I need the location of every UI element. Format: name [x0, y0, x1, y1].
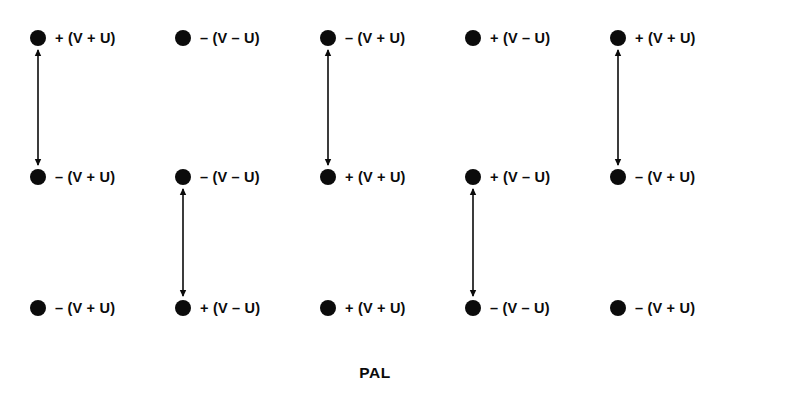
- phase-node-c3-r1: – (V + U): [320, 27, 405, 49]
- phase-node-label: – (V + U): [55, 170, 115, 185]
- phase-dot-icon: [30, 300, 46, 316]
- phase-node-label: + (V – U): [490, 31, 550, 46]
- phase-dot-icon: [320, 169, 336, 185]
- phase-node-label: – (V + U): [55, 301, 115, 316]
- phase-node-c2-r1: – (V – U): [175, 27, 260, 49]
- phase-node-label: – (V + U): [635, 170, 695, 185]
- phase-dot-icon: [175, 30, 191, 46]
- phase-arrow-col-4: [467, 188, 480, 297]
- phase-node-c2-r3: + (V – U): [175, 297, 260, 319]
- phase-node-c5-r3: – (V + U): [610, 297, 695, 319]
- phase-dot-icon: [320, 300, 336, 316]
- phase-node-label: + (V + U): [345, 301, 406, 316]
- phase-column-5: + (V + U) – (V + U) – (V + U): [610, 0, 755, 402]
- phase-node-c3-r2: + (V + U): [320, 166, 406, 188]
- phase-dot-icon: [610, 30, 626, 46]
- phase-node-c4-r2: + (V – U): [465, 166, 550, 188]
- phase-dot-icon: [610, 169, 626, 185]
- phase-dot-icon: [465, 30, 481, 46]
- phase-node-label: + (V + U): [345, 170, 406, 185]
- phase-node-label: + (V – U): [200, 301, 260, 316]
- phase-node-label: – (V + U): [345, 31, 405, 46]
- phase-arrow-col-3: [322, 49, 335, 166]
- phase-node-c3-r3: + (V + U): [320, 297, 406, 319]
- phase-node-c1-r2: – (V + U): [30, 166, 115, 188]
- phase-node-c1-r3: – (V + U): [30, 297, 115, 319]
- phase-node-label: – (V – U): [200, 31, 260, 46]
- phase-arrow-col-1: [32, 49, 45, 166]
- phase-dot-icon: [175, 169, 191, 185]
- phase-arrow-col-5: [612, 49, 625, 166]
- figure-caption: PAL: [359, 364, 391, 382]
- phase-node-label: + (V + U): [55, 31, 116, 46]
- phase-node-c5-r2: – (V + U): [610, 166, 695, 188]
- phase-node-label: – (V + U): [635, 301, 695, 316]
- phase-node-label: – (V – U): [200, 170, 260, 185]
- phase-dot-icon: [175, 300, 191, 316]
- phase-dot-icon: [30, 30, 46, 46]
- phase-node-c5-r1: + (V + U): [610, 27, 696, 49]
- phase-arrow-col-2: [177, 188, 190, 297]
- phase-column-4: + (V – U) + (V – U) – (V – U): [465, 0, 610, 402]
- phase-node-label: + (V – U): [490, 170, 550, 185]
- phase-dot-icon: [30, 169, 46, 185]
- phase-column-3: – (V + U) + (V + U) + (V + U): [320, 0, 465, 402]
- phase-node-c1-r1: + (V + U): [30, 27, 116, 49]
- phase-node-c2-r2: – (V – U): [175, 166, 260, 188]
- pal-phase-diagram: + (V + U) – (V + U) – (V + U) – (V – U) …: [0, 0, 786, 402]
- phase-node-label: + (V + U): [635, 31, 696, 46]
- phase-dot-icon: [320, 30, 336, 46]
- phase-dot-icon: [465, 169, 481, 185]
- phase-node-c4-r3: – (V – U): [465, 297, 550, 319]
- phase-dot-icon: [465, 300, 481, 316]
- phase-column-1: + (V + U) – (V + U) – (V + U): [30, 0, 175, 402]
- phase-node-c4-r1: + (V – U): [465, 27, 550, 49]
- phase-column-2: – (V – U) – (V – U) + (V – U): [175, 0, 320, 402]
- phase-dot-icon: [610, 300, 626, 316]
- phase-node-label: – (V – U): [490, 301, 550, 316]
